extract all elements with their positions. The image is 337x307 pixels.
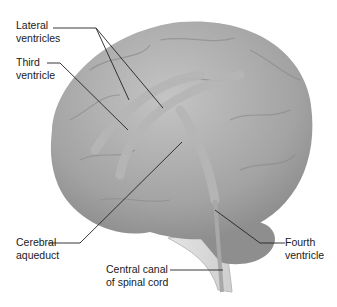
label-line: Central canal (106, 263, 168, 276)
label-line: of spinal cord (106, 276, 168, 289)
label-line: Fourth (285, 236, 324, 249)
label-line: ventricle (285, 249, 324, 262)
label-line: ventricles (16, 32, 60, 45)
label-line: Cerebral (16, 236, 59, 249)
cerebrum (51, 21, 313, 239)
label-line: Third (16, 56, 55, 69)
label-third-ventricle: Third ventricle (16, 56, 55, 81)
label-central-canal: Central canal of spinal cord (106, 263, 168, 288)
label-cerebral-aqueduct: Cerebral aqueduct (16, 236, 59, 261)
label-lateral-ventricles: Lateral ventricles (16, 19, 60, 44)
label-line: ventricle (16, 69, 55, 82)
label-line: Lateral (16, 19, 60, 32)
label-fourth-ventricle: Fourth ventricle (285, 236, 324, 261)
label-line: aqueduct (16, 249, 59, 262)
